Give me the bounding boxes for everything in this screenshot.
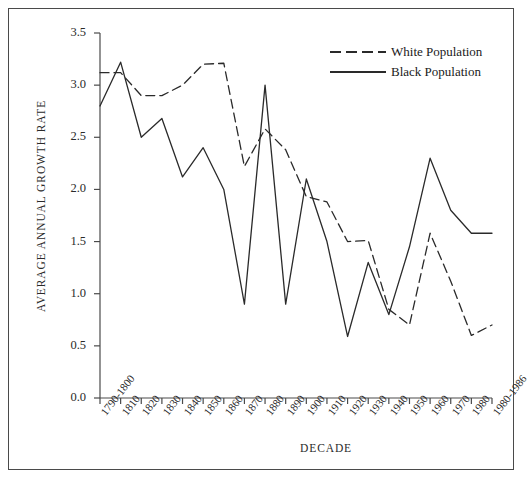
legend-swatch-solid-icon [330,71,386,73]
y-tick-label: 3.0 [52,77,86,92]
x-axis-title: DECADE [300,442,352,454]
legend-label-black: Black Population [391,64,481,80]
series-line-white-population [100,63,492,335]
chart-legend: White Population Black Population [330,42,482,82]
y-tick-label: 2.5 [52,129,86,144]
series-line-black-population [100,62,492,336]
legend-item-white: White Population [330,42,482,62]
y-tick-label: 3.5 [52,25,86,40]
legend-item-black: Black Population [330,62,482,82]
y-tick-label: 0.5 [52,338,86,353]
y-tick-label: 0.0 [52,390,86,405]
y-axis-title: AVERAGE ANNUAL GROWTH RATE [35,91,47,321]
legend-swatch-dashed-icon [330,51,386,53]
y-tick-label: 1.5 [52,234,86,249]
y-tick-label: 2.0 [52,181,86,196]
legend-label-white: White Population [391,44,482,60]
y-tick-label: 1.0 [52,286,86,301]
